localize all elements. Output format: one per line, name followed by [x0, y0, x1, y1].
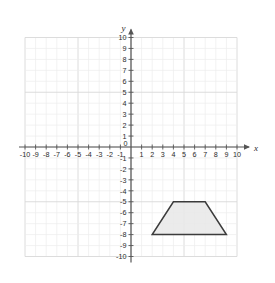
origin-label: 0	[124, 139, 128, 148]
x-tick-label: 5	[182, 150, 186, 159]
x-tick-label: 10	[233, 150, 241, 159]
y-tick-label: -7	[120, 219, 126, 228]
x-tick-label: -8	[43, 150, 49, 159]
coordinate-plane-figure: -10-9-8-7-6-5-4-3-2-11234567891010987654…	[0, 0, 275, 283]
y-tick-label: -6	[120, 208, 126, 217]
x-tick-label: 6	[193, 150, 197, 159]
y-tick-label: 7	[123, 66, 127, 75]
y-tick-label: -9	[120, 241, 126, 250]
coordinate-plane-svg: -10-9-8-7-6-5-4-3-2-11234567891010987654…	[0, 0, 275, 283]
x-tick-label: -5	[75, 150, 81, 159]
x-tick-label: 4	[171, 150, 175, 159]
x-tick-label: 2	[150, 150, 154, 159]
y-tick-label: 6	[123, 77, 127, 86]
x-tick-label: -2	[107, 150, 113, 159]
y-tick-label: -5	[120, 197, 126, 206]
x-tick-label: -4	[85, 150, 91, 159]
x-tick-label: 3	[161, 150, 165, 159]
x-tick-label: 1	[140, 150, 144, 159]
x-tick-label: 9	[224, 150, 228, 159]
x-tick-label: 8	[214, 150, 218, 159]
x-tick-label: -9	[32, 150, 38, 159]
y-axis-label: y	[121, 23, 126, 33]
y-tick-label: 3	[123, 110, 127, 119]
x-tick-label: -7	[54, 150, 60, 159]
x-axis-arrow	[244, 144, 250, 150]
x-tick-label: -10	[20, 150, 30, 159]
x-tick-label: 7	[203, 150, 207, 159]
y-tick-label: 5	[123, 88, 127, 97]
y-tick-label: 4	[123, 99, 127, 108]
y-tick-label: 2	[123, 121, 127, 130]
x-tick-label: -6	[64, 150, 70, 159]
y-tick-label: -4	[120, 187, 126, 196]
y-tick-label: -2	[120, 165, 126, 174]
y-tick-label: 8	[123, 55, 127, 64]
y-tick-label: 10	[119, 33, 127, 42]
y-tick-label: -3	[120, 176, 126, 185]
y-tick-label: -10	[116, 252, 126, 261]
y-axis-arrow	[128, 29, 134, 35]
y-tick-label: -1	[120, 154, 126, 163]
y-tick-label: 9	[123, 44, 127, 53]
y-tick-label: -8	[120, 230, 126, 239]
x-axis-label: x	[253, 143, 258, 153]
shape-trapezoid	[152, 202, 226, 235]
x-tick-label: -3	[96, 150, 102, 159]
